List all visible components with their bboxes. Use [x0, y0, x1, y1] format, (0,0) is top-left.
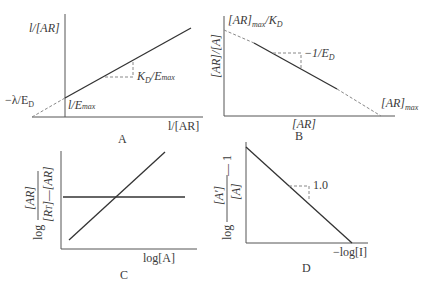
panel-b-y-axis-label: [AR]/[A] [209, 34, 223, 78]
panel-b-caption: B [295, 129, 303, 143]
panel-d-y-axis-label: log [A′] [A] — 1 [212, 155, 243, 240]
figure: l/[AR] KD/Emax −λ/ED l/Emax l/[AR] A [AR… [0, 0, 421, 285]
panel-d-y-denominator: [A] [229, 183, 243, 200]
panel-b-x-intercept-label: [AR]max [381, 96, 419, 112]
panel-b-y-intercept-label: [AR]max/KD [228, 13, 283, 29]
panel-a-x-axis-label: l/[AR] [168, 119, 199, 133]
panel-b-extrapolation-right [337, 89, 381, 116]
panel-c-y-log: log [31, 225, 45, 240]
panel-d-caption: D [302, 261, 311, 275]
panel-a-y-axis-label: l/[AR] [29, 21, 60, 35]
panel-c-y-numerator: [AR] [23, 186, 37, 210]
panel-c-x-axis-label: log[A] [143, 251, 175, 265]
panel-d-x-axis-label: −log[I] [333, 245, 367, 259]
panel-d-y-minus-one: — 1 [220, 155, 234, 177]
panel-b-extrapolation-left [224, 30, 254, 43]
panel-a-slope-triangle [105, 61, 133, 77]
panel-a-slope-label: KD/Emax [136, 69, 175, 85]
panel-c-y-axis-label: log [AR] [RT]—[AR] [23, 166, 55, 240]
panel-d-fit-line [246, 147, 352, 243]
panel-c-diagonal-line [69, 152, 165, 240]
panel-d-slope-label: 1.0 [313, 178, 328, 192]
panel-d-y-numerator: [A′] [212, 185, 226, 205]
panel-c-caption: C [120, 268, 128, 282]
panel-a-y-intercept-label: l/Emax [68, 98, 96, 112]
panel-a-extrapolation [32, 98, 65, 117]
panel-c: log [AR] [RT]—[AR] log[A] C [23, 151, 197, 282]
panel-c-y-denominator: [RT]—[AR] [41, 166, 55, 222]
panel-a-fit-line [65, 28, 191, 98]
panel-a-x-intercept-label: −λ/ED [5, 93, 34, 109]
panel-b: [AR]max/KD [AR]/[A] −1/ED [AR]max [AR] B [209, 13, 419, 143]
panel-a: l/[AR] KD/Emax −λ/ED l/Emax l/[AR] A [5, 14, 203, 146]
panel-a-caption: A [118, 132, 127, 146]
panel-b-slope-label: −1/ED [304, 46, 335, 62]
panel-d: log [A′] [A] — 1 1.0 −log[I] D [212, 142, 368, 275]
panel-d-y-log: log [220, 225, 234, 240]
